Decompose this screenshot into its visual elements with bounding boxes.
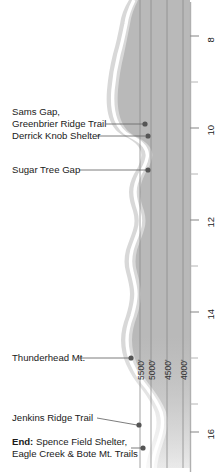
callout-jenkins-ridge-trail: Jenkins Ridge Trail bbox=[12, 412, 93, 424]
callout-greenbrier-ridge-trail: Greenbrier Ridge Trail bbox=[12, 118, 106, 130]
mile-axis-label-14: 14 bbox=[205, 302, 216, 320]
mile-axis-label-8: 8 bbox=[205, 29, 216, 43]
mile-axis-label-12: 12 bbox=[205, 210, 216, 228]
callout-derrick-knob-shelter: Derrick Knob Shelter bbox=[12, 130, 101, 142]
marker-dot-end-point bbox=[140, 445, 145, 450]
callout-sugar-tree-gap: Sugar Tree Gap bbox=[12, 164, 80, 176]
callout-sams-gap: Sams Gap, bbox=[12, 106, 60, 118]
chart-area bbox=[0, 0, 218, 474]
marker-dot-thunderhead bbox=[128, 355, 133, 360]
elevation-label-4000: 4000' bbox=[179, 346, 189, 380]
elevation-label-5000: 5000' bbox=[147, 346, 157, 380]
callout-thunderhead-mt: Thunderhead Mt. bbox=[12, 352, 85, 364]
marker-dot-sugar-tree-gap bbox=[145, 167, 150, 172]
callout-end-line1-text: Spence Field Shelter, bbox=[33, 436, 127, 447]
callout-end-point-line2: Eagle Creek & Bote Mt. Trails bbox=[12, 448, 138, 460]
mile-axis-major-ticks bbox=[190, 36, 199, 432]
elevation-profile-chart bbox=[0, 0, 218, 474]
marker-dot-derrick-knob bbox=[145, 133, 150, 138]
mile-axis-label-10: 10 bbox=[205, 118, 216, 136]
callout-end-point: End: Spence Field Shelter, Eagle Creek &… bbox=[12, 436, 138, 459]
leader-line-jenkins-ridge bbox=[97, 418, 137, 425]
callout-end-prefix: End: bbox=[12, 436, 33, 447]
mile-axis-label-16: 16 bbox=[205, 422, 216, 440]
elevation-label-5500: 5500' bbox=[136, 346, 146, 380]
elevation-profile-figure: 8 10 12 14 16 5500' 5000' 4500' 4000' Sa… bbox=[0, 0, 218, 474]
callout-end-point-line1: End: Spence Field Shelter, bbox=[12, 436, 138, 448]
elevation-label-4500: 4500' bbox=[163, 346, 173, 380]
marker-dot-greenbrier bbox=[142, 121, 147, 126]
marker-dot-jenkins-ridge bbox=[136, 422, 141, 427]
